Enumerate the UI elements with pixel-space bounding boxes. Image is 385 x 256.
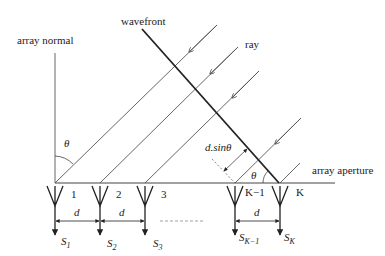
theta-aperture-label: θ [251, 169, 257, 181]
signal-label-1: S1 [61, 235, 71, 250]
array-normal-label: array normal [17, 34, 74, 46]
element-k-index: K [296, 186, 304, 198]
array-aperture-label: array aperture [312, 164, 373, 176]
signal-label-k-1: SK−1 [239, 231, 259, 246]
theta-normal-label: θ [64, 137, 70, 149]
wavefront-line [142, 29, 279, 183]
spacing-label-3: d [254, 206, 260, 218]
wavefront-label: wavefront [121, 15, 166, 27]
ray-arrow-k-1 [275, 118, 301, 144]
antenna-element-2: 2 [92, 186, 122, 235]
element-1-index: 1 [71, 188, 77, 200]
ray-arrow-3 [232, 71, 259, 98]
antenna-element-1: 1 [47, 186, 77, 235]
array-diagram: array normal θ array aperture ray wavefr… [0, 0, 385, 256]
element-k-1-index: K−1 [245, 186, 265, 198]
ray-arrow-2 [210, 47, 238, 74]
dsin-label: d.sinθ [205, 141, 232, 153]
ray-label: ray [245, 38, 260, 50]
ray-arrow-1 [189, 25, 217, 52]
theta-arc-normal [55, 156, 73, 164]
signal-label-3: S3 [153, 237, 163, 252]
spacing-label-1: d [74, 206, 80, 218]
antenna-element-3: 3 [137, 186, 167, 235]
spacing-label-2: d [119, 206, 125, 218]
theta-arc-aperture [263, 171, 268, 183]
signal-label-2: S2 [107, 237, 117, 252]
element-2-index: 2 [116, 188, 122, 200]
dsin-dashed-line [212, 159, 235, 183]
signal-label-k: SK [284, 231, 296, 246]
element-3-index: 3 [161, 188, 167, 200]
ray-line-k [280, 163, 300, 183]
antenna-element-k: K [272, 186, 304, 235]
